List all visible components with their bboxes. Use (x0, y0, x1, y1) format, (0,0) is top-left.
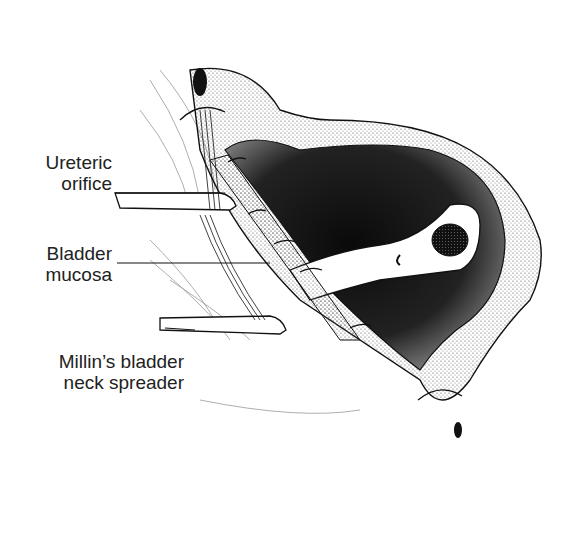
label-line: neck spreader (20, 372, 184, 393)
stay-loop-top (193, 68, 207, 96)
label-line: Ureteric (20, 152, 112, 173)
label-line: mucosa (20, 264, 112, 285)
label-bladder-mucosa: Bladder mucosa (20, 243, 112, 285)
label-line: Millin’s bladder (20, 351, 184, 372)
label-line: Bladder (20, 243, 112, 264)
stay-loop-bottom (454, 422, 462, 438)
label-line: orifice (20, 173, 112, 194)
ureteric-orifice-lumen (432, 224, 468, 256)
label-millins-spreader: Millin’s bladder neck spreader (20, 351, 184, 393)
label-ureteric-orifice: Ureteric orifice (20, 152, 112, 194)
